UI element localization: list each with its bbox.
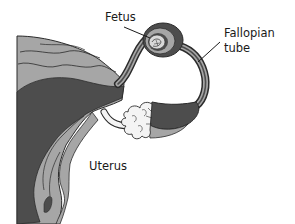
diagram-canvas: Fetus Fallopian tube Uterus xyxy=(0,0,295,224)
fetus-sac xyxy=(143,23,183,57)
fallopian-tube-label-line1: Fallopian xyxy=(224,27,275,40)
uterus-label: Uterus xyxy=(89,160,127,173)
fetus-label: Fetus xyxy=(105,11,136,24)
fallopian-tube-label-line2: tube xyxy=(224,42,250,55)
fallopian-tube-leader-line xyxy=(198,42,220,62)
uterus-shape xyxy=(17,36,124,224)
ovary-fimbriae xyxy=(104,102,152,138)
